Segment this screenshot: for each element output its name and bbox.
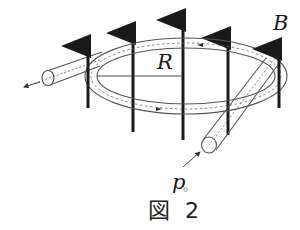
extraction-tube (24, 52, 102, 87)
magnetic-field-label: B (273, 13, 288, 34)
figure-caption: 図 2 (148, 200, 203, 222)
radius-label: R (157, 52, 173, 73)
injection-tube (183, 58, 280, 167)
storage-ring-diagram (0, 0, 300, 230)
ring-tube (85, 38, 287, 114)
momentum-subscript: 0 (183, 186, 188, 194)
